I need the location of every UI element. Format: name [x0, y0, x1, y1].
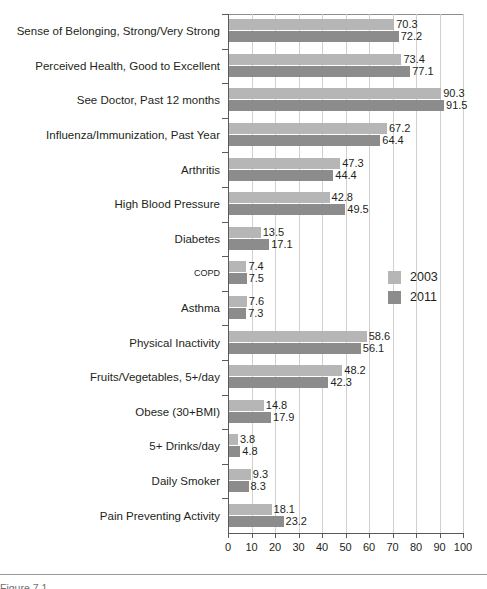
category-label: Fruits/Vegetables, 5+/day: [0, 370, 220, 384]
chart-row: Fruits/Vegetables, 5+/day48.242.3: [0, 360, 487, 395]
category-label: Asthma: [0, 301, 220, 315]
bar-2003: [229, 192, 330, 203]
bar-2003: [229, 158, 340, 169]
y-tick: [222, 49, 228, 50]
x-tick-label-100: 100: [454, 541, 472, 554]
chart-row: High Blood Pressure42.849.5: [0, 187, 487, 222]
bar-2003: [229, 227, 261, 238]
y-tick: [222, 395, 228, 396]
bar-2011: [229, 343, 361, 354]
x-tick-label-30: 30: [292, 541, 304, 554]
bar-value-2011: 56.1: [363, 343, 384, 354]
bar-2011: [229, 446, 240, 457]
bar-2011: [229, 308, 246, 319]
bar-2011: [229, 412, 271, 423]
bar-value-2011: 7.5: [249, 273, 264, 284]
bar-value-2003: 73.4: [403, 54, 424, 65]
x-tick-40: [322, 533, 323, 538]
figure-caption-text: Figure 7.1: [0, 582, 487, 589]
bar-2003: [229, 123, 387, 134]
bar-value-2003: 67.2: [389, 123, 410, 134]
x-tick-label-0: 0: [225, 541, 231, 554]
bar-2003: [229, 296, 247, 307]
x-tick-label-20: 20: [269, 541, 281, 554]
category-label: Sense of Belonging, Strong/Very Strong: [0, 24, 220, 38]
category-label: Diabetes: [0, 232, 220, 246]
y-tick: [222, 187, 228, 188]
bar-value-2003: 9.3: [253, 469, 268, 480]
x-tick-20: [275, 533, 276, 538]
category-label: COPD: [0, 266, 220, 280]
bar-chart: 0102030405060708090100 Sense of Belongin…: [0, 0, 487, 589]
figure-caption: Figure 7.1: [0, 582, 487, 589]
bar-2003: [229, 54, 401, 65]
x-tick-label-40: 40: [316, 541, 328, 554]
chart-row: See Doctor, Past 12 months90.391.5: [0, 83, 487, 118]
chart-row: Arthritis47.344.4: [0, 152, 487, 187]
legend-label-2003: 2003: [410, 270, 438, 285]
bar-value-2011: 49.5: [347, 204, 368, 215]
category-label: High Blood Pressure: [0, 197, 220, 211]
category-label: Perceived Health, Good to Excellent: [0, 59, 220, 73]
category-label: Daily Smoker: [0, 474, 220, 488]
bar-value-2011: 42.3: [330, 377, 351, 388]
category-label: Pain Preventing Activity: [0, 509, 220, 523]
bar-2011: [229, 516, 284, 527]
bar-2011: [229, 273, 247, 284]
y-tick: [222, 325, 228, 326]
chart-row: 5+ Drinks/day3.84.8: [0, 429, 487, 464]
y-tick: [222, 83, 228, 84]
x-tick-label-90: 90: [433, 541, 445, 554]
bar-value-2011: 44.4: [335, 170, 356, 181]
x-tick-80: [416, 533, 417, 538]
bar-2011: [229, 170, 333, 181]
bar-value-2003: 7.4: [248, 261, 263, 272]
chart-row: Diabetes13.517.1: [0, 222, 487, 257]
y-tick: [222, 498, 228, 499]
legend-label-2011: 2011: [410, 290, 437, 305]
x-tick-30: [299, 533, 300, 538]
footer-divider: [0, 574, 487, 575]
bar-2003: [229, 434, 238, 445]
bar-value-2003: 18.1: [274, 504, 295, 515]
bar-2011: [229, 100, 444, 111]
x-tick-10: [252, 533, 253, 538]
category-label: Obese (30+BMI): [0, 405, 220, 419]
legend-swatch-icon-2003: [388, 271, 401, 284]
y-tick: [222, 464, 228, 465]
x-tick-label-60: 60: [363, 541, 375, 554]
bar-2011: [229, 377, 328, 388]
chart-row: Physical Inactivity58.656.1: [0, 325, 487, 360]
bar-2003: [229, 88, 441, 99]
chart-row: Obese (30+BMI)14.817.9: [0, 395, 487, 430]
bar-value-2011: 23.2: [286, 516, 307, 527]
x-tick-0: [228, 533, 229, 538]
bar-2011: [229, 239, 269, 250]
bar-value-2003: 7.6: [249, 296, 264, 307]
bar-value-2003: 42.8: [332, 192, 353, 203]
category-label: 5+ Drinks/day: [0, 439, 220, 453]
chart-row: Influenza/Immunization, Past Year67.264.…: [0, 118, 487, 153]
bar-2003: [229, 504, 272, 515]
bar-value-2011: 91.5: [446, 100, 467, 111]
y-tick: [222, 256, 228, 257]
legend-item-2011: 2011: [388, 288, 463, 308]
bar-value-2011: 17.9: [273, 412, 294, 423]
y-tick: [222, 429, 228, 430]
legend-item-2003: 2003: [388, 268, 463, 288]
x-tick-100: [463, 533, 464, 538]
category-label: Arthritis: [0, 163, 220, 177]
bar-value-2011: 72.2: [401, 31, 422, 42]
bar-value-2003: 47.3: [342, 158, 363, 169]
chart-row: Perceived Health, Good to Excellent73.47…: [0, 49, 487, 84]
bar-value-2003: 48.2: [344, 365, 365, 376]
bar-value-2011: 4.8: [242, 446, 257, 457]
legend-swatch-icon-2011: [388, 291, 401, 304]
y-tick: [222, 360, 228, 361]
bar-value-2011: 77.1: [412, 66, 433, 77]
y-tick: [222, 222, 228, 223]
bar-2011: [229, 204, 345, 215]
bar-value-2011: 7.3: [248, 308, 263, 319]
x-tick-90: [440, 533, 441, 538]
category-label: See Doctor, Past 12 months: [0, 93, 220, 107]
